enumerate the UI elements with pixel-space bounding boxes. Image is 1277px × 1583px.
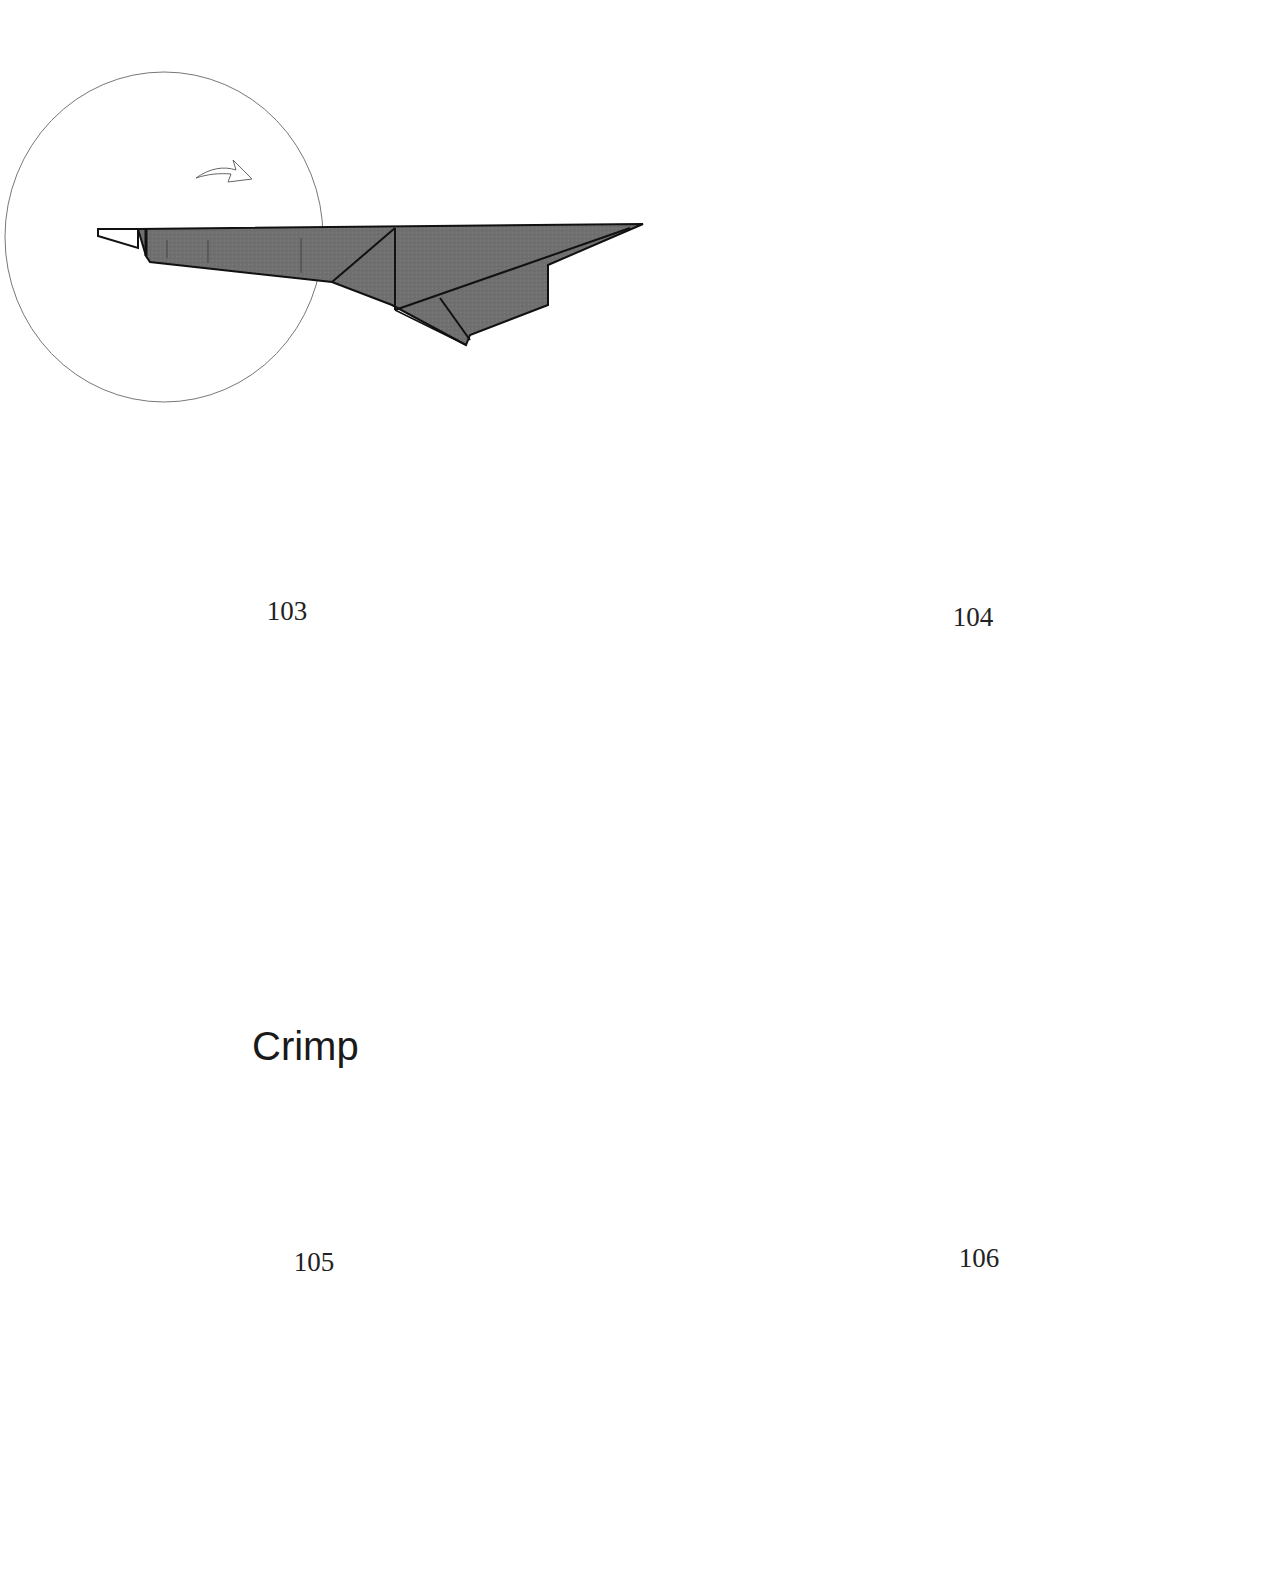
step-number-105: 105 [264,1247,364,1278]
turn-over-arrow-icon [196,160,252,182]
origami-diagrams [0,0,1277,1583]
white-flap [98,229,138,248]
step-number-103: 103 [237,596,337,627]
step-number-106: 106 [929,1243,1029,1274]
diagram-page: 103 104 Crimp 105 106 [0,0,1277,1583]
step-103-diagram [5,72,643,402]
step-number-104: 104 [923,602,1023,633]
model-body [138,224,643,345]
crimp-label: Crimp [252,1024,359,1069]
